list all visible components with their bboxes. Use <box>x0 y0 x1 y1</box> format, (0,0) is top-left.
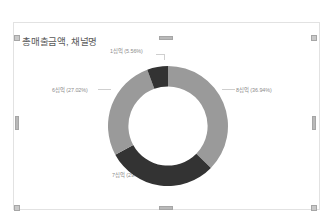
donut-slices <box>107 66 227 186</box>
data-label-1: 1십억 (5.56%) <box>110 47 143 55</box>
donut-ring[interactable] <box>106 64 230 188</box>
donut-chart-area[interactable]: 1십억 (5.56%) 8십억 (36.94%) 6십억 (27.02%) 7십… <box>14 41 321 211</box>
data-label-6: 6십억 (27.02%) <box>52 86 88 94</box>
donut-slice-6십억[interactable] <box>107 70 153 155</box>
donut-slice-7십억[interactable] <box>115 145 211 186</box>
screenshot-root: 총매출금액, 채널명 1십억 (5.56%) 8십억 (36.94%) 6십억 … <box>0 0 333 224</box>
label-leader-line <box>164 54 165 60</box>
donut-svg <box>106 64 230 188</box>
donut-chart-visual-card[interactable]: 총매출금액, 채널명 1십억 (5.56%) 8십억 (36.94%) 6십억 … <box>13 22 320 210</box>
data-label-8: 8십억 (36.94%) <box>236 86 272 94</box>
donut-slice-8십억[interactable] <box>168 66 228 168</box>
